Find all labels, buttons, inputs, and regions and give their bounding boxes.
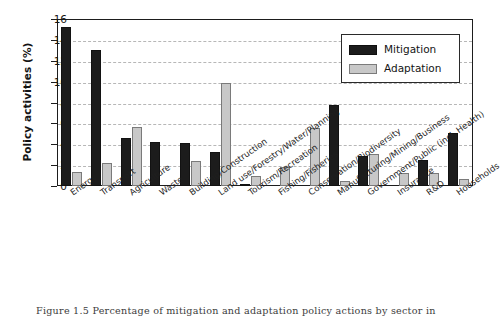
adaptation-swatch-icon (349, 64, 377, 74)
bar-group (57, 19, 87, 186)
bar-group (146, 19, 176, 186)
mitigation-swatch-icon (349, 45, 377, 55)
legend-label-adaptation: Adaptation (384, 63, 441, 74)
y-axis-title: Policy activities (%) (21, 17, 33, 187)
bar-mitigation (61, 27, 71, 186)
chart-legend: Mitigation Adaptation (341, 34, 460, 83)
legend-item-mitigation: Mitigation (349, 40, 453, 59)
bar-group (116, 19, 146, 186)
legend-item-adaptation: Adaptation (349, 59, 453, 78)
bar-group (87, 19, 117, 186)
bar-mitigation (240, 184, 250, 186)
legend-label-mitigation: Mitigation (384, 44, 436, 55)
bar-adaptation (310, 128, 320, 186)
bar-group (176, 19, 206, 186)
y-tick-mark (51, 186, 57, 187)
bar-mitigation (91, 50, 101, 186)
bar-adaptation (132, 127, 142, 186)
figure-caption: Figure 1.5 Percentage of mitigation and … (36, 305, 456, 316)
